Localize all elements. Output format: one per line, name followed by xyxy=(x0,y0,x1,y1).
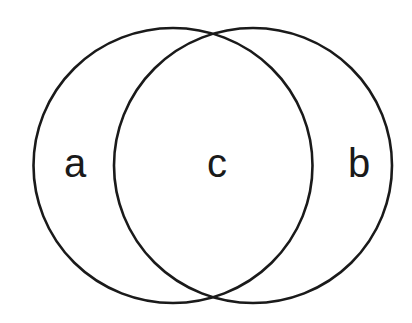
region-label-b: b xyxy=(348,143,370,183)
venn-diagram: a c b xyxy=(0,0,412,323)
region-label-a: a xyxy=(64,143,86,183)
region-label-c: c xyxy=(207,143,227,183)
